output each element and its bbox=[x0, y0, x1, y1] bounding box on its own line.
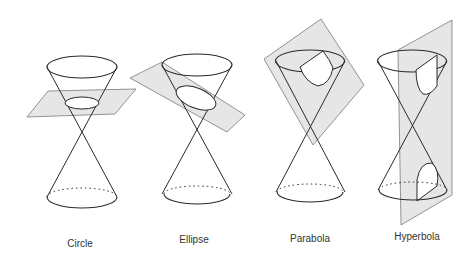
parabola-cone-base-front bbox=[277, 192, 343, 202]
ellipse-cone-base-back bbox=[164, 186, 230, 194]
hyperbola-figure bbox=[378, 20, 453, 225]
circle-cone-base-back bbox=[47, 188, 117, 197]
parabola-cone-base-back bbox=[277, 184, 343, 192]
label-circle: Circle bbox=[67, 238, 93, 249]
circle-figure bbox=[27, 56, 136, 208]
ellipse-cone-top bbox=[162, 54, 232, 76]
circle-section-curve bbox=[65, 97, 99, 109]
ellipse-figure bbox=[130, 54, 245, 204]
circle-cone-base-front bbox=[47, 197, 117, 208]
label-hyperbola: Hyperbola bbox=[394, 231, 440, 242]
ellipse-cone-base-front bbox=[164, 194, 230, 204]
label-ellipse: Ellipse bbox=[179, 234, 208, 245]
label-parabola: Parabola bbox=[290, 233, 330, 244]
parabola-figure bbox=[264, 19, 364, 202]
circle-cone-top bbox=[47, 56, 117, 78]
conic-sections-diagram bbox=[0, 0, 476, 265]
